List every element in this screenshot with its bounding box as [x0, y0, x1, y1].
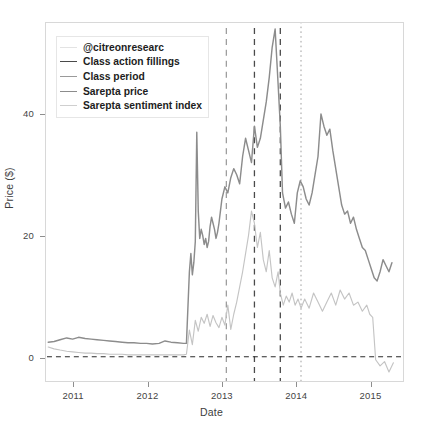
- x-tick-label: 2015: [345, 390, 397, 401]
- legend-swatch-icon: [60, 105, 77, 106]
- legend-swatch-icon: [60, 91, 77, 92]
- legend-label: @citreonresearc: [83, 42, 164, 53]
- legend-label: Class period: [83, 71, 145, 82]
- legend-item[interactable]: Class period: [60, 69, 202, 84]
- legend-label: Sarepta sentiment index: [83, 100, 202, 111]
- y-tick-label: 40: [0, 108, 34, 119]
- x-tick-label: 2014: [270, 390, 322, 401]
- y-tick-label: 0: [0, 352, 34, 363]
- x-axis-label: Date: [0, 406, 423, 418]
- legend-item[interactable]: Sarepta sentiment index: [60, 98, 202, 113]
- legend-label: Class action fillings: [83, 56, 180, 67]
- x-tick-label: 2013: [196, 390, 248, 401]
- x-tick-mark: [296, 382, 297, 387]
- x-tick-mark: [222, 382, 223, 387]
- y-tick-label: 20: [0, 230, 34, 241]
- legend-item[interactable]: Class action fillings: [60, 55, 202, 70]
- legend-label: Sarepta price: [83, 86, 148, 97]
- legend-swatch-icon: [60, 76, 77, 77]
- x-tick-mark: [148, 382, 149, 387]
- chart-legend: @citreonresearcClass action fillingsClas…: [56, 36, 209, 118]
- x-tick-mark: [73, 382, 74, 387]
- legend-swatch-icon: [60, 61, 77, 62]
- legend-item[interactable]: @citreonresearc: [60, 40, 202, 55]
- x-tick-label: 2012: [122, 390, 174, 401]
- y-axis-label: Price ($): [3, 58, 15, 318]
- legend-swatch-icon: [60, 47, 77, 48]
- series-sarepta-sentiment-index: [48, 211, 393, 372]
- chart-figure: Price ($) 02040 20112012201320142015 Dat…: [0, 0, 423, 431]
- x-tick-mark: [371, 382, 372, 387]
- x-tick-label: 2011: [47, 390, 99, 401]
- legend-item[interactable]: Sarepta price: [60, 84, 202, 99]
